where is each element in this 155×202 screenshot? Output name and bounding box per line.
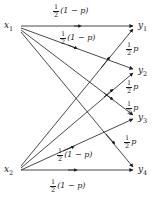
fraction-numerator: 1 [60,31,66,38]
node-label-x1: x1 [4,21,13,32]
fraction-numerator: 1 [57,148,63,155]
fraction-denominator: 2 [57,155,63,163]
channel-diagram: x1 x2 y1 y2 y3 y4 1 2 (1 − p) 1 2 (1 − p… [0,0,155,202]
edge-label-p-bottom: 1 2 p [124,135,136,150]
node-y1-sub: 1 [143,25,147,33]
fraction-denominator: 2 [126,49,132,57]
fraction-denominator: 2 [124,142,130,150]
fraction-numerator: 1 [124,135,130,142]
fraction-denominator: 2 [53,11,59,19]
edge-label-p-top: 1 2 p [126,42,138,57]
node-label-y4: y4 [138,165,147,176]
fraction-one-half: 1 2 [124,135,130,150]
edge-label-bottom: 1 2 (1 − p) [50,179,85,194]
label-expression: p [133,45,138,53]
edge-label-lower-mid: 1 2 (1 − p) [57,148,92,163]
node-label-y2: y2 [138,66,147,77]
label-expression: p [131,138,136,146]
fraction-numerator: 1 [50,179,56,186]
node-y2-sub: 2 [143,70,147,78]
node-x1-sub: 1 [9,25,13,33]
label-expression: (1 − p) [64,151,92,159]
fraction-numerator: 1 [126,80,132,87]
fraction-one-half: 1 2 [57,148,63,163]
fraction-one-half: 1 2 [60,31,66,46]
edge-label-upper-mid: 1 2 (1 − p) [60,31,95,46]
edge-x2-y1-midarrow [101,58,109,68]
fraction-one-half: 1 2 [126,42,132,57]
label-expression: p [133,83,138,91]
node-y3-sub: 3 [143,117,147,125]
label-expression: p [133,104,138,112]
fraction-denominator: 2 [126,87,132,95]
edge-label-p-lower: 1 2 p [126,101,138,116]
edge-label-top: 1 2 (1 − p) [53,4,88,19]
label-expression: (1 − p) [60,7,88,15]
edge-x2-y1 [21,29,133,166]
fraction-one-half: 1 2 [126,101,132,116]
fraction-one-half: 1 2 [50,179,56,194]
node-x2-sub: 2 [9,169,13,177]
fraction-one-half: 1 2 [53,4,59,19]
edge-label-p-upper: 1 2 p [126,80,138,95]
node-label-y3: y3 [138,113,147,124]
fraction-denominator: 2 [126,108,132,116]
fraction-numerator: 1 [53,4,59,11]
label-expression: (1 − p) [67,34,95,42]
node-label-y1: y1 [138,21,147,32]
fraction-numerator: 1 [126,42,132,49]
node-y4-sub: 4 [143,169,147,177]
fraction-numerator: 1 [126,101,132,108]
edge-x1-y4-midarrow [106,134,114,143]
fraction-one-half: 1 2 [126,80,132,95]
edge-x1-y4 [21,32,133,167]
node-label-x2: x2 [4,165,13,176]
fraction-denominator: 2 [60,38,66,46]
label-expression: (1 − p) [57,182,85,190]
fraction-denominator: 2 [50,186,56,194]
